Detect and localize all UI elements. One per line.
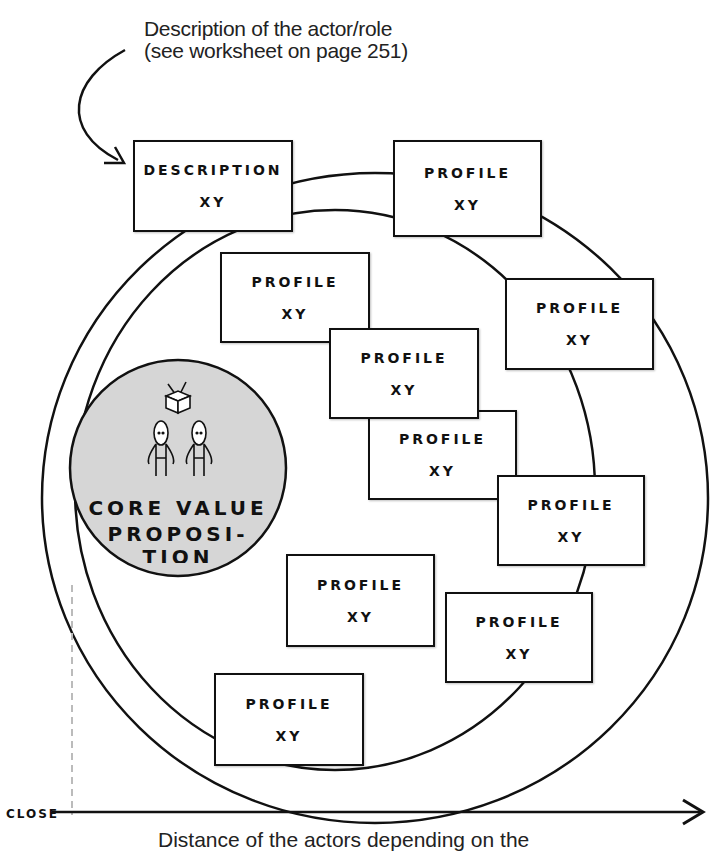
core-value-label: CORE VALUE PROPOSI- TION xyxy=(70,495,286,563)
profile-box: PROFILEXY xyxy=(497,475,645,566)
axis-caption: Distance of the actors depending on the xyxy=(158,828,529,852)
profile-box: PROFILEXY xyxy=(329,328,479,419)
profile-box: PROFILEXY xyxy=(505,278,654,370)
profile-box: PROFILEXY xyxy=(393,140,542,237)
description-box: DESCRIPTION XY xyxy=(133,140,293,232)
profile-box: PROFILEXY xyxy=(286,554,435,647)
profile-box: PROFILEXY xyxy=(214,673,364,766)
axis-start-label: CLOSE xyxy=(6,807,59,821)
profile-box: PROFILEXY xyxy=(368,410,517,500)
pointer-arrow xyxy=(79,50,125,160)
annotation-text: Description of the actor/role (see works… xyxy=(144,18,408,62)
profile-box: PROFILEXY xyxy=(445,592,593,683)
